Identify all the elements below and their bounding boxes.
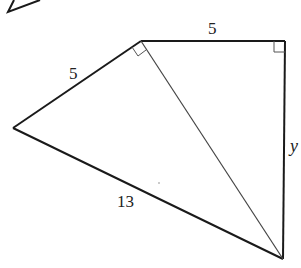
right-angle-marker-B: [274, 41, 285, 52]
label-right-y: y: [288, 136, 298, 156]
segment-bottom-CD: [13, 128, 283, 259]
speck: [158, 182, 160, 184]
segment-left-CA: [13, 41, 141, 128]
geometry-diagram: 5 5 13 y: [0, 0, 301, 268]
label-bottom: 13: [117, 192, 134, 211]
segment-right-BD: [283, 41, 285, 259]
label-top: 5: [208, 19, 217, 38]
label-left: 5: [69, 64, 78, 83]
previous-figure-fragment: [8, 0, 40, 12]
right-angle-marker-A: [132, 47, 146, 56]
diagonal-AD: [141, 41, 283, 259]
quadrilateral: [13, 41, 285, 259]
